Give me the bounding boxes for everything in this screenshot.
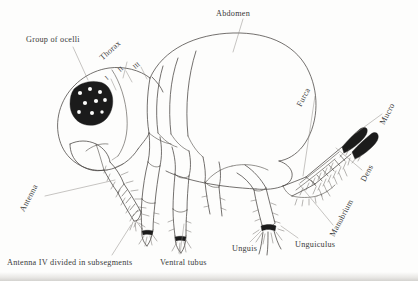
antenna [70, 141, 149, 231]
label-abdomen: Abdomen [216, 10, 250, 18]
claw-fore [139, 229, 157, 246]
leg-hind [237, 165, 284, 255]
leader-lines [45, 19, 382, 255]
figure-plate: .ln{fill:none;stroke:#46423f;stroke-widt… [0, 0, 418, 281]
leader-unguis [250, 231, 261, 242]
leader-abdomen [233, 19, 243, 52]
label-antenna-iv-subsegments: Antenna IV divided in subsegments [7, 259, 132, 267]
leader-thorax-ii [126, 71, 132, 82]
body-outline [147, 33, 316, 189]
leader-ocelli [73, 47, 88, 80]
claw-hind [253, 225, 284, 256]
leader-antenna-iv [112, 225, 131, 255]
leader-furca [303, 96, 315, 176]
label-ventral-tubus: Ventral tubus [160, 259, 207, 267]
leader-mucro [356, 114, 382, 133]
label-group-of-ocelli: Group of ocelli [26, 36, 80, 44]
leader-antenna [45, 180, 115, 196]
leg-fore [136, 133, 162, 246]
leader-manubrium [299, 184, 333, 225]
leader-thorax-i [111, 79, 116, 90]
ventral-tubus [168, 147, 191, 253]
mucro [340, 128, 378, 164]
leader-unguiculus [281, 226, 298, 238]
group-of-ocelli-patch [70, 81, 113, 125]
leg-mid [202, 157, 226, 216]
label-unguiculus: Unguiculus [295, 241, 335, 249]
label-unguis: Unguis [232, 245, 257, 253]
